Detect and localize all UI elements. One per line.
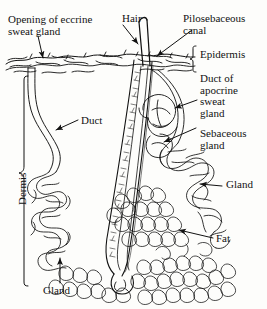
arrow-duct [56,120,78,130]
hair-follicle-art [106,60,153,294]
hair-shaft-art [139,18,150,66]
arrow-opening-eccrine [38,36,43,58]
label-dermis: Dermis [17,173,29,205]
label-duct: Duct [81,115,102,127]
label-sebaceous-gland: Sebaceous gland [200,128,246,151]
arrow-fat [179,230,213,238]
epidermis-bracket [190,46,196,72]
label-opening-eccrine-sweat-gland: Opening of eccrine sweat gland [8,14,92,37]
label-epidermis: Epidermis [200,49,245,61]
label-hair: Hair [122,13,142,25]
arrow-duct-apocrine [175,100,197,108]
label-duct-of-apocrine-sweat-gland: Duct of apocrine sweat gland [200,73,238,119]
label-gland-right: Gland [226,179,253,191]
subcutaneous-fat-art [49,186,236,305]
skin-cross-section-figure: Opening of eccrine sweat gland Hair Pilo… [0,0,267,309]
eccrine-gland-art [28,172,71,270]
label-fat: Fat [216,233,230,245]
arrow-hair [123,25,138,44]
epidermis-band-art [6,50,195,73]
diagram-artwork [0,0,267,309]
eccrine-duct-art [28,68,60,172]
label-gland-left: Gland [43,285,70,297]
label-pilosebaceous-canal: Pilosebaceous canal [183,13,245,36]
